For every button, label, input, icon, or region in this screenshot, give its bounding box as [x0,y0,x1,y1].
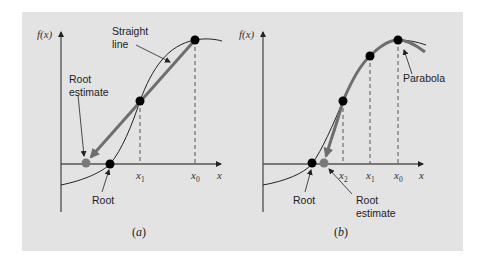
panel-b-root-estimate-label-2: estimate [356,207,396,220]
tick-subscript: 2 [344,175,348,184]
tick-subscript: 0 [196,175,200,184]
panel-a-root-estimate-label-2: estimate [69,86,109,99]
panel-a-straight-line-label-2: line [112,38,128,51]
figure-graphics [0,0,484,268]
panel-b-parabola-leader [404,50,412,74]
panel-a-root-estimate-leader [78,95,84,156]
panel-a-root-label: Root [92,194,114,207]
panel-b-root-label: Root [293,194,315,207]
caption-paren: ) [344,225,348,239]
panel-b-point-x0 [394,36,403,45]
panel-b-function-curve [263,40,426,185]
panel-a-straight-line-leader [136,45,170,62]
panel-b-y-axis-label: f(x) [239,28,254,40]
panel-b-caption: (b) [334,225,348,240]
panel-a-point-x1 [136,97,145,106]
panel-b-root-estimate-label-1: Root [356,194,378,207]
panel-b-tick-x2: x2 [339,169,348,186]
panel-b-root-leader [305,170,311,192]
panel-b-parabola-arrow [326,140,331,156]
panel-a-root-estimate-point [82,159,91,168]
panel-a-tick-x1: x1 [136,169,145,186]
caption-paren: ) [142,225,146,239]
panel-b-parabola-label: Parabola [403,72,445,85]
tick-subscript: 0 [399,175,403,184]
panel-a-root-estimate-label-1: Root [69,73,91,86]
panel-b-parabola [331,40,425,140]
panel-b-root-estimate-point [320,159,329,168]
panel-a-root-point [106,160,115,169]
panel-a-y-axis-label: f(x) [37,28,52,40]
panel-b-point-x2 [339,97,348,106]
panel-b-x-axis-label: x [419,169,424,181]
panel-a-straight-line-label-1: Straight [112,25,148,38]
panel-b-tick-x1: x1 [366,169,375,186]
panel-b-tick-x0: x0 [394,169,403,186]
panel-a-x-axis-label: x [217,169,222,181]
tick-subscript: 1 [141,175,145,184]
panel-b-point-x1 [366,52,375,61]
panel-a-root-leader [102,170,109,192]
panel-a-y-axis-label-text: f(x) [37,28,52,40]
panel-a-tick-x0: x0 [191,169,200,186]
panel-a-point-x0 [191,36,200,45]
panel-b-root-point [308,159,317,168]
panel-a-caption: (a) [132,225,146,240]
tick-subscript: 1 [371,175,375,184]
